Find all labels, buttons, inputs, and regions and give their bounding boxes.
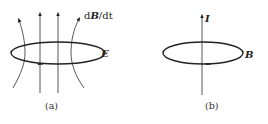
field-line-outer-right (71, 19, 84, 88)
E-field-label: E (100, 48, 109, 59)
current-I-label: I (204, 13, 210, 24)
field-lines (13, 14, 84, 93)
caption-a: (a) (45, 100, 58, 111)
loop-direction-arrow-b (206, 64, 211, 65)
loop-ellipse-b (163, 42, 243, 64)
panel-b: I B (b) (163, 13, 253, 111)
panel-a: dB/dt E (a) (11, 10, 113, 111)
dB-dt-label: dB/dt (84, 10, 113, 21)
field-line-outer-left (13, 20, 25, 88)
caption-b: (b) (205, 100, 219, 111)
B-field-label: B (244, 49, 253, 60)
diagram-canvas: dB/dt E (a) I B (b) (0, 0, 268, 124)
loop-direction-arrow-a (38, 64, 43, 65)
